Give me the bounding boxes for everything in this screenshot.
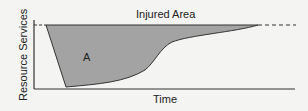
diagram-title: Injured Area xyxy=(136,8,195,20)
injured-area-shape xyxy=(46,25,258,87)
y-axis-label: Resource Services xyxy=(17,11,29,101)
area-label: A xyxy=(83,51,90,63)
x-axis-label: Time xyxy=(153,93,177,105)
